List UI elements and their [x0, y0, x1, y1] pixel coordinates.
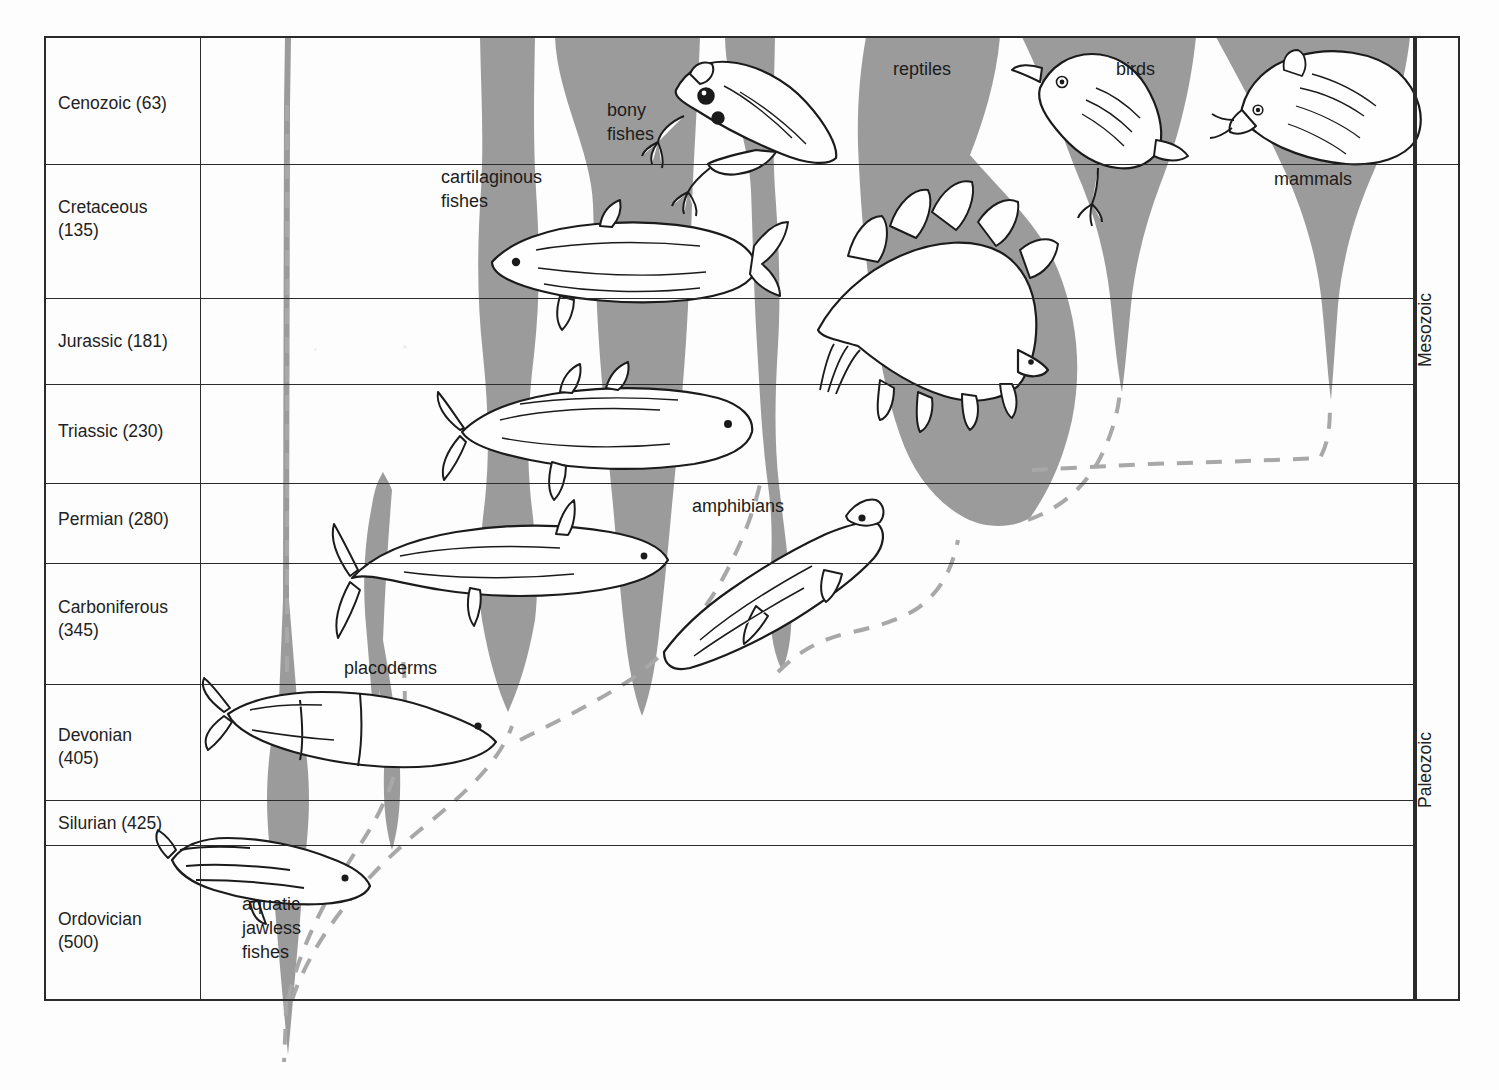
era-column-frame: [1415, 36, 1460, 1001]
period-label-silurian-line1: Silurian (425): [58, 812, 198, 835]
rowline-devonian-silurian: [44, 800, 1415, 801]
period-label-devonian-line1: Devonian: [58, 724, 198, 747]
taxon-label-cartilaginous-fishes: cartilaginous fishes: [441, 165, 542, 213]
scan-speckle: [403, 345, 407, 349]
erasep-cenozoic-mesozoic: [1415, 164, 1460, 165]
period-label-ordovician-line2: (500): [58, 931, 198, 954]
taxon-label-amphibians: amphibians: [692, 494, 784, 518]
taxon-label-placoderms: placoderms: [344, 656, 437, 680]
period-label-jurassic-line1: Jurassic (181): [58, 330, 198, 353]
evolution-timeline-figure: Cenozoic (63) Cretaceous (135) Jurassic …: [0, 0, 1499, 1090]
period-label-ordovician-line1: Ordovician: [58, 908, 198, 931]
rowline-silurian-ordovician: [44, 845, 1415, 846]
era-label-mesozoic: Mesozoic: [1415, 250, 1460, 410]
taxon-label-birds: birds: [1116, 57, 1155, 81]
erasep-mesozoic-paleozoic: [1415, 483, 1460, 484]
scan-speckle: [314, 348, 317, 351]
taxon-cartilaginous-line2: fishes: [441, 189, 542, 213]
rowline-jurassic-triassic: [44, 384, 1415, 385]
period-label-devonian: Devonian (405): [58, 724, 198, 770]
timeline-grid-frame: [44, 36, 1415, 1001]
taxon-label-reptiles: reptiles: [893, 57, 951, 81]
rowline-carboniferous-devonian: [44, 684, 1415, 685]
taxon-bony-line2: fishes: [607, 122, 654, 146]
taxon-label-mammals: mammals: [1274, 167, 1352, 191]
rowline-cretaceous-jurassic: [44, 298, 1415, 299]
period-label-triassic-line1: Triassic (230): [58, 420, 198, 443]
period-label-ordovician: Ordovician (500): [58, 908, 198, 954]
taxon-cartilaginous-line1: cartilaginous: [441, 165, 542, 189]
period-label-carboniferous-line2: (345): [58, 619, 198, 642]
period-label-cretaceous: Cretaceous (135): [58, 196, 198, 242]
taxon-label-bony-fishes: bony fishes: [607, 98, 654, 146]
rowline-cenozoic-cretaceous: [44, 164, 1415, 165]
period-label-silurian: Silurian (425): [58, 812, 198, 835]
rowline-triassic-permian: [44, 483, 1415, 484]
period-label-cretaceous-line2: (135): [58, 219, 198, 242]
period-label-cretaceous-line1: Cretaceous: [58, 196, 198, 219]
period-label-carboniferous: Carboniferous (345): [58, 596, 198, 642]
taxon-jawless-line2: jawless: [242, 916, 301, 940]
era-label-paleozoic: Paleozoic: [1415, 690, 1460, 850]
period-label-cenozoic-line1: Cenozoic (63): [58, 92, 198, 115]
period-label-jurassic: Jurassic (181): [58, 330, 198, 353]
rowline-permian-carboniferous: [44, 563, 1415, 564]
period-label-devonian-line2: (405): [58, 747, 198, 770]
taxon-label-aquatic-jawless-fishes: aquatic jawless fishes: [242, 892, 301, 964]
taxon-bony-line1: bony: [607, 98, 654, 122]
period-label-permian-line1: Permian (280): [58, 508, 198, 531]
period-column-divider: [200, 36, 201, 1001]
taxon-jawless-line1: aquatic: [242, 892, 301, 916]
period-label-triassic: Triassic (230): [58, 420, 198, 443]
taxon-jawless-line3: fishes: [242, 940, 301, 964]
period-label-cenozoic: Cenozoic (63): [58, 92, 198, 115]
dash-jawless-root: [284, 1000, 286, 1062]
period-label-permian: Permian (280): [58, 508, 198, 531]
period-label-carboniferous-line1: Carboniferous: [58, 596, 198, 619]
